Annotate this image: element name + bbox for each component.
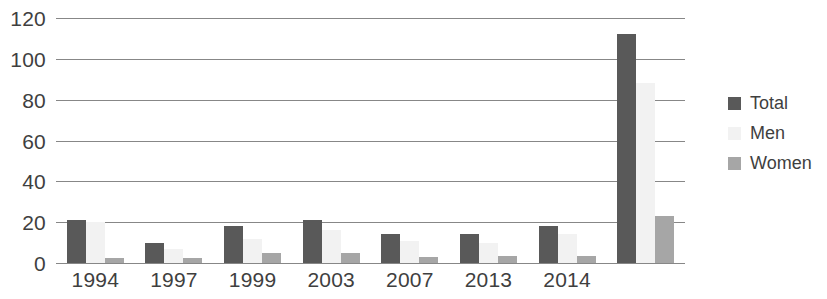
bar-group [213,18,292,263]
legend-item[interactable]: Men [728,120,827,146]
bar-group [135,18,214,263]
bar-women [577,256,596,263]
x-axis: 1994199719992003200720132014 [56,268,685,299]
bar-men [558,234,577,263]
x-tick-label: 1999 [213,268,292,299]
legend-swatch-icon [728,157,741,170]
plot-area [56,18,685,263]
bar-women [655,216,674,263]
bar-women [262,253,281,263]
axis-baseline [56,263,685,264]
bar-men [479,243,498,263]
bar-men [636,83,655,263]
bar-women [183,258,202,263]
bar-group [449,18,528,263]
bar-men [322,230,341,263]
x-tick-label: 2014 [528,268,607,299]
bar-total [617,34,636,263]
y-tick-label: 80 [22,89,46,110]
bar-women [419,257,438,263]
x-tick-label: 2007 [371,268,450,299]
y-tick-label: 20 [22,212,46,233]
bar-group [606,18,685,263]
bar-women [498,256,517,263]
bar-women [341,253,360,263]
bar-men [86,222,105,263]
legend-item[interactable]: Women [728,150,827,176]
bar-total [303,220,322,263]
bar-chart: 020406080100120 199419971999200320072013… [0,0,827,299]
bar-men [400,241,419,263]
legend-item[interactable]: Total [728,90,827,116]
y-tick-label: 40 [22,171,46,192]
bar-total [460,234,479,263]
legend-swatch-icon [728,97,741,110]
bar-women [105,258,124,263]
bar-group [528,18,607,263]
x-tick-label: 2003 [292,268,371,299]
x-tick-label: 1994 [56,268,135,299]
legend-label: Total [750,94,788,112]
bar-group [371,18,450,263]
y-tick-label: 100 [10,48,46,69]
bar-total [224,226,243,263]
y-tick-label: 60 [22,130,46,151]
bar-men [243,239,262,264]
x-tick-label: 2013 [449,268,528,299]
bar-men [164,249,183,263]
bar-total [381,234,400,263]
bar-total [67,220,86,263]
legend-label: Men [750,124,785,142]
bar-group [56,18,135,263]
bar-total [539,226,558,263]
x-tick-label [606,268,685,299]
bar-total [145,243,164,263]
legend-label: Women [750,154,812,172]
y-tick-label: 0 [34,253,46,274]
bar-group [292,18,371,263]
bars-layer [56,18,685,263]
y-axis: 020406080100120 [0,0,52,299]
legend-swatch-icon [728,127,741,140]
x-tick-label: 1997 [135,268,214,299]
legend: TotalMenWomen [728,90,827,180]
y-tick-label: 120 [10,8,46,29]
